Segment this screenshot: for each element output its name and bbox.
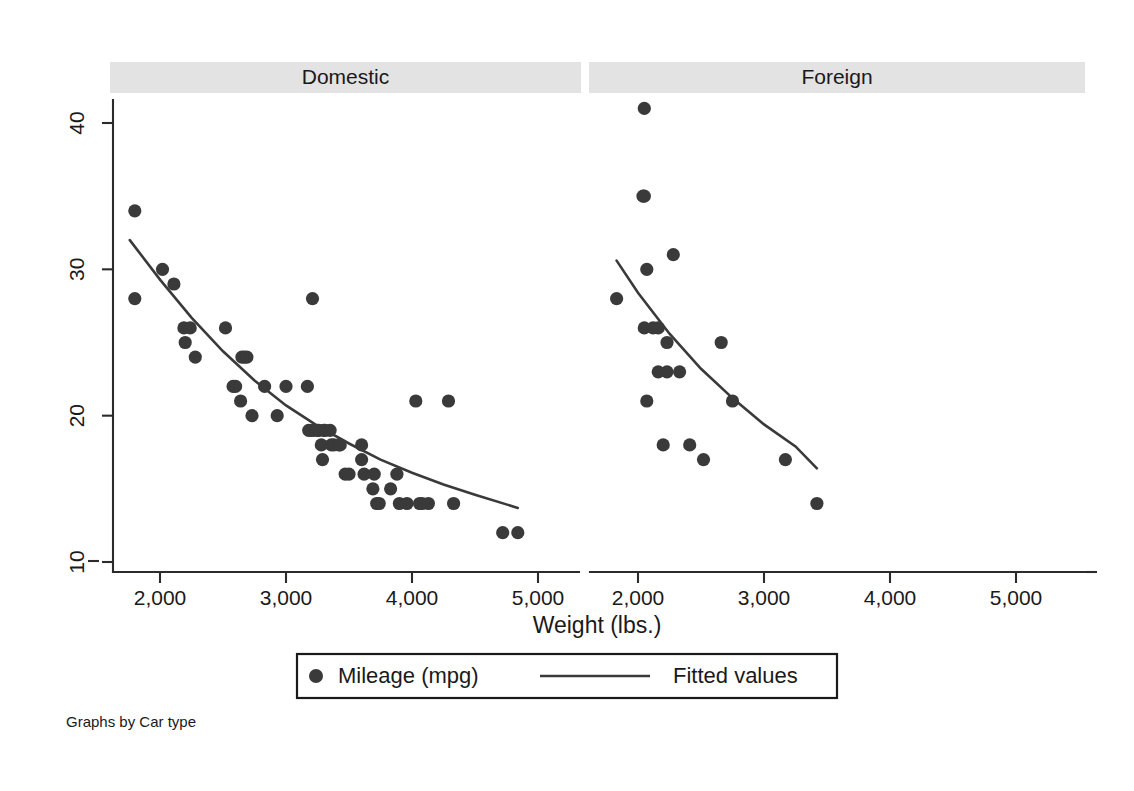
- data-point: [156, 263, 169, 276]
- data-point: [400, 497, 413, 510]
- data-point: [373, 497, 386, 510]
- data-point: [301, 380, 314, 393]
- data-point: [184, 321, 197, 334]
- data-point: [324, 424, 337, 437]
- data-point: [306, 292, 319, 305]
- data-point: [179, 336, 192, 349]
- data-point: [715, 336, 728, 349]
- scatter-points-foreign: [610, 102, 824, 510]
- data-point: [229, 380, 242, 393]
- data-point: [657, 438, 670, 451]
- data-point: [810, 497, 823, 510]
- data-point: [683, 438, 696, 451]
- data-point: [390, 468, 403, 481]
- data-point: [258, 380, 271, 393]
- data-point: [368, 468, 381, 481]
- x-tick-label-foreign-3000: 3,000: [738, 586, 791, 609]
- scatter-points-domestic: [128, 204, 524, 539]
- data-point: [442, 394, 455, 407]
- data-point: [279, 380, 292, 393]
- data-point: [355, 453, 368, 466]
- data-point: [128, 292, 141, 305]
- data-point: [366, 482, 379, 495]
- y-tick-label-30: 30: [65, 258, 88, 281]
- data-point: [219, 321, 232, 334]
- data-point: [779, 453, 792, 466]
- data-point: [697, 453, 710, 466]
- data-point: [355, 438, 368, 451]
- x-tick-label-domestic-3000: 3,000: [260, 586, 313, 609]
- data-point: [667, 248, 680, 261]
- data-point: [660, 365, 673, 378]
- data-point: [342, 468, 355, 481]
- data-point: [638, 190, 651, 203]
- data-point: [240, 351, 253, 364]
- data-point: [422, 497, 435, 510]
- x-tick-label-foreign-2000: 2,000: [612, 586, 665, 609]
- x-axis-title: Weight (lbs.): [533, 612, 662, 638]
- panel-plot-foreign: [610, 102, 824, 510]
- x-tick-label-domestic-4000: 4,000: [386, 586, 439, 609]
- data-point: [673, 365, 686, 378]
- fitted-line-domestic: [130, 240, 518, 508]
- data-point: [271, 409, 284, 422]
- data-point: [640, 263, 653, 276]
- panel-title-domestic: Domestic: [302, 65, 390, 88]
- fitted-line-foreign: [617, 261, 817, 469]
- stata-graph-figure: DomesticForeign102030402,0003,0004,0005,…: [0, 0, 1134, 791]
- data-point: [660, 336, 673, 349]
- data-point: [128, 204, 141, 217]
- data-point: [189, 351, 202, 364]
- data-point: [496, 526, 509, 539]
- y-tick-label-10: 10: [65, 550, 88, 573]
- data-point: [447, 497, 460, 510]
- data-point: [245, 409, 258, 422]
- data-point: [409, 394, 422, 407]
- graph-note: Graphs by Car type: [66, 713, 196, 730]
- x-tick-label-domestic-2000: 2,000: [134, 586, 187, 609]
- data-point: [334, 438, 347, 451]
- data-point: [511, 526, 524, 539]
- data-point: [234, 394, 247, 407]
- x-tick-label-foreign-4000: 4,000: [864, 586, 917, 609]
- legend-label-fitted: Fitted values: [673, 663, 798, 688]
- data-point: [640, 394, 653, 407]
- data-point: [610, 292, 623, 305]
- legend-marker-circle-icon: [309, 669, 323, 683]
- panel-plot-domestic: [128, 204, 524, 539]
- y-tick-label-20: 20: [65, 404, 88, 427]
- y-tick-label-40: 40: [65, 111, 88, 134]
- panel-title-foreign: Foreign: [801, 65, 872, 88]
- x-tick-label-domestic-5000: 5,000: [512, 586, 565, 609]
- data-point: [384, 482, 397, 495]
- data-point: [652, 321, 665, 334]
- chart-canvas: DomesticForeign102030402,0003,0004,0005,…: [0, 0, 1134, 791]
- legend-label-mileage: Mileage (mpg): [338, 663, 479, 688]
- data-point: [316, 453, 329, 466]
- data-point: [638, 102, 651, 115]
- data-point: [726, 394, 739, 407]
- data-point: [167, 277, 180, 290]
- x-tick-label-foreign-5000: 5,000: [990, 586, 1043, 609]
